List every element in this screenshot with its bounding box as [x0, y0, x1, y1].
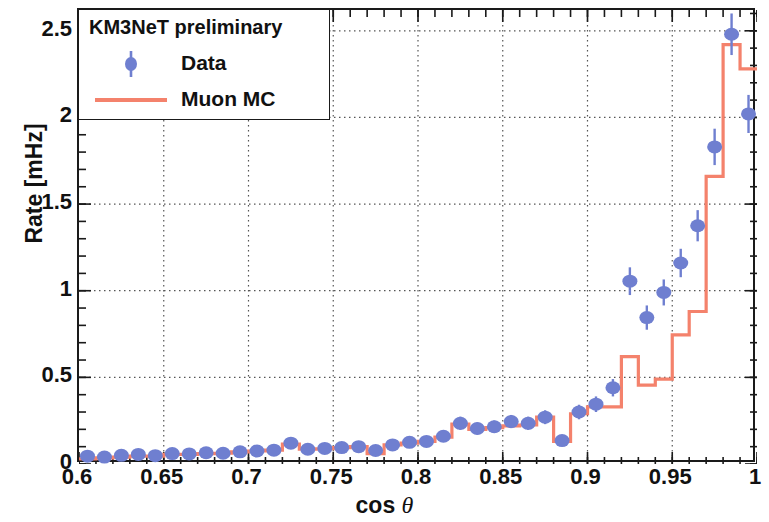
x-tick-label: 0.85 — [456, 466, 546, 488]
data-point-marker — [453, 417, 468, 430]
data-point-marker — [521, 417, 536, 430]
data-point-marker — [97, 451, 112, 464]
data-point-marker — [80, 450, 95, 463]
legend-box: KM3NeT preliminary Data Muon MC — [78, 9, 330, 120]
data-point-marker — [165, 447, 180, 460]
data-point-marker — [656, 286, 671, 299]
data-point-marker — [131, 448, 146, 461]
data-point-marker — [622, 275, 637, 288]
data-point-marker — [419, 435, 434, 448]
data-point-marker — [283, 437, 298, 450]
data-point-marker — [216, 447, 231, 460]
data-point-marker — [436, 430, 451, 443]
y-tick-label: 2.5 — [6, 18, 72, 40]
data-point-marker — [487, 420, 502, 433]
x-tick-label: 1 — [710, 466, 769, 488]
data-point-marker — [402, 436, 417, 449]
data-point-marker — [690, 219, 705, 232]
data-point-marker — [504, 415, 519, 428]
x-axis-title-prefix: cos — [356, 492, 396, 518]
data-point-marker — [266, 444, 281, 457]
data-point-marker — [555, 434, 570, 447]
data-point-marker — [639, 311, 654, 324]
y-tick-label: 1.5 — [6, 191, 72, 213]
data-point-marker — [249, 445, 264, 458]
x-tick-label: 0.7 — [202, 466, 292, 488]
data-point-marker — [385, 438, 400, 451]
data-point-marker — [724, 28, 739, 41]
data-point-marker — [233, 445, 248, 458]
x-tick-label: 0.95 — [625, 466, 715, 488]
data-point-marker — [572, 406, 587, 419]
data-point-marker — [741, 107, 756, 120]
y-tick-label: 2 — [6, 104, 72, 126]
legend-label-data: Data — [181, 51, 227, 75]
y-tick-label: 1 — [6, 278, 72, 300]
y-tick-label: 0.5 — [6, 364, 72, 386]
data-point-marker — [368, 444, 383, 457]
data-point-marker — [317, 442, 332, 455]
data-point-marker — [605, 381, 620, 394]
data-point-marker — [334, 441, 349, 454]
data-point-marker — [182, 447, 197, 460]
x-tick-label: 0.65 — [117, 466, 207, 488]
data-point-marker — [300, 443, 315, 456]
x-tick-label: 0.9 — [541, 466, 631, 488]
data-point-marker — [114, 449, 129, 462]
x-axis-title-theta-symbol: θ — [402, 492, 414, 518]
x-tick-label: 0.6 — [32, 466, 122, 488]
muon-mc-line-icon — [89, 84, 173, 116]
data-point-marker — [148, 449, 163, 462]
data-point-marker — [707, 140, 722, 153]
x-axis-title: cos θ — [0, 492, 769, 519]
data-point-marker — [673, 256, 688, 269]
data-point-marker — [199, 446, 214, 459]
x-tick-label: 0.75 — [286, 466, 376, 488]
data-marker-icon — [89, 48, 173, 80]
figure-root: Rate [mHz] 00.511.522.5 0.60.650.70.750.… — [0, 0, 769, 522]
y-axis-tick-labels: 00.511.522.5 — [0, 0, 72, 522]
data-point-marker — [351, 440, 366, 453]
data-point-marker — [470, 422, 485, 435]
data-point-marker — [538, 411, 553, 424]
x-tick-label: 0.8 — [371, 466, 461, 488]
legend-title: KM3NeT preliminary — [89, 16, 282, 39]
legend-label-muon-mc: Muon MC — [181, 87, 275, 111]
data-point-marker — [588, 398, 603, 411]
